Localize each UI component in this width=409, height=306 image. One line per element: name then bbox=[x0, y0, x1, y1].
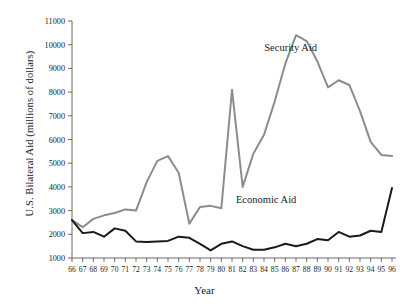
y-tick-label: 4000 bbox=[49, 183, 65, 192]
x-tick-label: 85 bbox=[271, 265, 279, 274]
y-tick-label: 6000 bbox=[49, 136, 65, 145]
x-tick-label: 92 bbox=[346, 265, 354, 274]
x-tick-label: 80 bbox=[218, 265, 226, 274]
x-tick-label: 77 bbox=[186, 265, 194, 274]
x-tick-label: 68 bbox=[90, 265, 98, 274]
x-tick-label: 88 bbox=[303, 265, 311, 274]
series-label-group: Security AidEconomic Aid bbox=[236, 42, 318, 206]
series-line-economic-aid bbox=[72, 188, 392, 250]
y-tick-label: 5000 bbox=[49, 159, 65, 168]
y-tick-group: 1000200030004000500060007000800090001000… bbox=[45, 17, 72, 263]
x-tick-label: 90 bbox=[324, 265, 332, 274]
x-tick-label: 95 bbox=[378, 265, 386, 274]
chart-figure: U.S. Bilateral Aid (millions of dollars)… bbox=[0, 0, 409, 306]
x-tick-label: 78 bbox=[196, 265, 204, 274]
x-tick-label: 81 bbox=[228, 265, 236, 274]
x-tick-label: 71 bbox=[122, 265, 130, 274]
series-group bbox=[72, 35, 392, 250]
x-tick-label: 72 bbox=[132, 265, 140, 274]
x-tick-label: 89 bbox=[314, 265, 322, 274]
x-tick-label: 94 bbox=[367, 265, 375, 274]
y-tick-label: 8000 bbox=[49, 88, 65, 97]
x-tick-label: 69 bbox=[100, 265, 108, 274]
x-tick-group: 6667686970717273747576777879808182838485… bbox=[68, 258, 396, 274]
x-tick-label: 96 bbox=[388, 265, 396, 274]
y-tick-label: 7000 bbox=[49, 112, 65, 121]
x-tick-label: 66 bbox=[68, 265, 76, 274]
y-tick-label: 1000 bbox=[49, 254, 65, 263]
x-tick-label: 82 bbox=[239, 265, 247, 274]
x-tick-label: 86 bbox=[282, 265, 290, 274]
y-tick-label: 2000 bbox=[49, 230, 65, 239]
x-tick-label: 79 bbox=[207, 265, 215, 274]
x-tick-label: 87 bbox=[292, 265, 300, 274]
x-tick-label: 76 bbox=[175, 265, 183, 274]
chart-plot-area: 1000200030004000500060007000800090001000… bbox=[0, 0, 409, 306]
x-tick-label: 91 bbox=[335, 265, 343, 274]
y-tick-label: 3000 bbox=[49, 207, 65, 216]
x-tick-label: 75 bbox=[164, 265, 172, 274]
series-annotation-security-aid: Security Aid bbox=[264, 42, 318, 53]
y-tick-label: 9000 bbox=[49, 64, 65, 73]
x-tick-label: 73 bbox=[143, 265, 151, 274]
x-tick-label: 74 bbox=[154, 265, 162, 274]
x-tick-label: 67 bbox=[79, 265, 87, 274]
x-tick-label: 70 bbox=[111, 265, 119, 274]
series-annotation-economic-aid: Economic Aid bbox=[236, 194, 297, 205]
y-tick-label: 11000 bbox=[45, 17, 65, 26]
series-line-security-aid bbox=[72, 35, 392, 227]
x-tick-label: 84 bbox=[260, 265, 268, 274]
x-tick-label: 83 bbox=[250, 265, 258, 274]
x-tick-label: 93 bbox=[356, 265, 364, 274]
y-tick-label: 10000 bbox=[45, 41, 65, 50]
